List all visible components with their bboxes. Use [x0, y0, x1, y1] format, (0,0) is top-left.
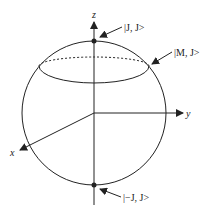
state-label-bottom: |−J, J>	[123, 192, 149, 203]
state-point-top	[92, 39, 97, 44]
x-axis-label: x	[9, 147, 15, 158]
pointer-latitude	[152, 52, 172, 64]
state-point-bottom	[92, 183, 97, 188]
state-label-latitude: |M, J>	[174, 47, 200, 58]
pointer-top	[100, 27, 122, 37]
z-axis-label: z	[91, 9, 96, 20]
bloch-sphere-diagram: z y x |J, J> |M, J> |−J, J>	[0, 0, 214, 213]
y-axis-label: y	[185, 108, 191, 119]
pointer-bottom	[100, 189, 121, 197]
state-label-top: |J, J>	[124, 22, 145, 33]
x-axis	[20, 113, 94, 150]
